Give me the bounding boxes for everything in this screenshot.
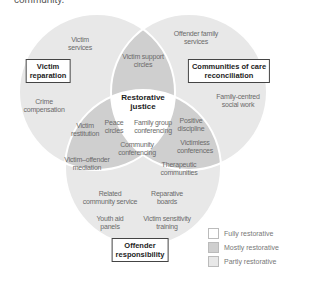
label-victim-restitution: Victimrestitution xyxy=(71,122,99,138)
legend-item-partly: Partly restorative xyxy=(208,254,279,268)
legend-item-mostly: Mostly restorative xyxy=(208,240,279,254)
label-victim-offender-mediation: Victim–offendermediation xyxy=(64,156,109,172)
label-crime-compensation: Crimecompensation xyxy=(23,98,64,114)
legend-swatch-mostly xyxy=(208,242,219,253)
title-communities-of-care: Communities of carereconciliation xyxy=(188,59,270,83)
label-therapeutic-communities: Therapeuticcommunities xyxy=(160,161,197,177)
label-family-centred-social-work: Family-centredsocial work xyxy=(216,93,260,109)
label-peace-circles: Peacecircles xyxy=(105,119,124,135)
label-victimless-conferences: Victimlessconferences xyxy=(177,139,213,155)
label-victim-support-circles: Victim supportcircles xyxy=(122,53,163,69)
legend-item-fully: Fully restorative xyxy=(208,226,279,240)
label-youth-aid-panels: Youth aidpanels xyxy=(96,215,123,231)
label-community-conferencing: Communityconferencing xyxy=(118,141,156,157)
label-positive-discipline: Positivediscipline xyxy=(178,117,205,133)
legend-swatch-fully xyxy=(208,228,219,239)
label-victim-services: Victimservices xyxy=(68,36,92,52)
label-related-community-service: Relatedcommunity service xyxy=(83,190,138,206)
title-restorative-justice: Restorativejustice xyxy=(121,93,165,111)
label-victim-sensitivity-training: Victim sensitivitytraining xyxy=(143,215,191,231)
label-offender-family-services: Offender familyservices xyxy=(174,30,218,46)
legend-swatch-partly xyxy=(208,256,219,267)
legend: Fully restorative Mostly restorative Par… xyxy=(208,226,279,268)
title-victim-reparation: Victimreparation xyxy=(26,59,71,83)
label-family-group-conferencing: Family groupconferencing xyxy=(134,119,172,135)
title-offender-responsibility: Offenderresponsibility xyxy=(112,238,169,262)
label-reparative-boards: Reparativeboards xyxy=(151,190,183,206)
